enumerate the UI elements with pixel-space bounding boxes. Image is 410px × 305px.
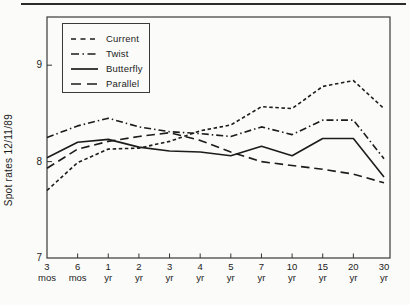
butterfly-line-sample-icon	[71, 67, 98, 71]
legend-item-butterfly: Butterfly	[63, 61, 149, 76]
legend-item-twist: Twist	[63, 46, 149, 61]
legend-label-butterfly: Butterfly	[106, 63, 143, 74]
legend: Current Twist Butterfly Parallel	[62, 23, 150, 93]
x-tick-label: 3yr	[153, 262, 187, 283]
twist-line-sample-icon	[71, 52, 98, 56]
x-tick-label: 15yr	[306, 262, 340, 283]
legend-item-parallel: Parallel	[63, 76, 149, 91]
legend-label-current: Current	[106, 33, 139, 44]
x-tick-label: 3mos	[30, 262, 64, 283]
y-tick-label: 8	[26, 156, 42, 167]
x-tick-label: 2yr	[122, 262, 156, 283]
current-line-sample-icon	[71, 37, 98, 41]
y-axis-title: Spot rates 12/11/89	[3, 114, 14, 206]
x-tick-label: 1yr	[91, 262, 125, 283]
x-tick-label: 5yr	[214, 262, 248, 283]
x-tick-label: 6mos	[61, 262, 95, 283]
legend-item-current: Current	[63, 31, 149, 46]
x-tick-label: 4yr	[183, 262, 217, 283]
figure: Spot rates 12/11/89 789 3mos6mos1yr2yr3y…	[0, 0, 410, 305]
parallel-line-sample-icon	[71, 82, 98, 86]
legend-label-twist: Twist	[106, 48, 129, 59]
x-tick-label: 30yr	[367, 262, 401, 283]
y-tick-label: 9	[26, 59, 42, 70]
legend-label-parallel: Parallel	[106, 78, 139, 89]
x-tick-label: 7yr	[244, 262, 278, 283]
x-tick-label: 20yr	[336, 262, 370, 283]
x-tick-label: 10yr	[275, 262, 309, 283]
current-line	[47, 81, 384, 191]
